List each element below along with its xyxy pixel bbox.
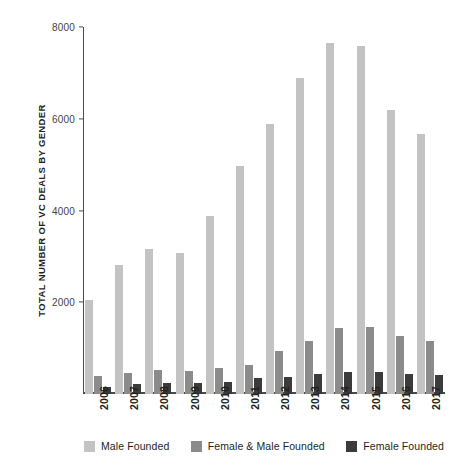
- x-axis-label-cell: 2007: [113, 396, 143, 440]
- bar-groups: [83, 27, 445, 394]
- x-axis-label: 2012: [279, 386, 291, 410]
- bar-group: [415, 27, 445, 394]
- x-axis-label-cell: 2006: [83, 396, 113, 440]
- x-axis-labels: 2006200720082009201020112012201320142015…: [83, 396, 445, 440]
- x-axis-label-cell: 2010: [204, 396, 234, 440]
- bar-group: [113, 27, 143, 394]
- bar-2011-male: [236, 166, 244, 394]
- bar-group: [385, 27, 415, 394]
- x-axis-label: 2015: [370, 386, 382, 410]
- legend-label: Female Founded: [363, 440, 444, 452]
- plot-area: 2000400060008000: [83, 27, 445, 394]
- legend-swatch-icon: [191, 441, 202, 452]
- bar-2009-male: [176, 253, 184, 394]
- bar-2014-male: [326, 43, 334, 394]
- bar-2015-fm: [366, 327, 374, 394]
- bar-2015-male: [357, 46, 365, 394]
- x-axis-label: 2017: [430, 386, 442, 410]
- bar-group: [234, 27, 264, 394]
- x-axis-label-cell: 2012: [264, 396, 294, 440]
- bar-2010-male: [206, 216, 214, 394]
- y-axis-tick-label: 8000: [35, 22, 75, 33]
- x-axis-label: 2010: [219, 386, 231, 410]
- x-axis-label-cell: 2013: [294, 396, 324, 440]
- x-axis-label: 2011: [249, 386, 261, 410]
- x-axis-label-cell: 2016: [385, 396, 415, 440]
- legend-item[interactable]: Male Founded: [84, 440, 169, 452]
- x-axis-label: 2014: [339, 386, 351, 410]
- bar-2006-male: [85, 300, 93, 395]
- y-axis-tick-label: 6000: [35, 113, 75, 124]
- x-axis-label: 2016: [400, 386, 412, 410]
- x-axis-label: 2013: [309, 386, 321, 410]
- bar-group: [324, 27, 354, 394]
- bar-group: [143, 27, 173, 394]
- x-axis-label-cell: 2017: [415, 396, 445, 440]
- bar-group: [264, 27, 294, 394]
- bar-2012-male: [266, 124, 274, 394]
- x-axis-label: 2008: [158, 386, 170, 410]
- vc-deals-by-gender-chart: TOTAL NUMBER OF VC DEALS BY GENDER 20004…: [0, 0, 455, 476]
- legend-label: Female & Male Founded: [208, 440, 325, 452]
- x-axis-label-cell: 2011: [234, 396, 264, 440]
- bar-2016-male: [387, 110, 395, 394]
- legend-item[interactable]: Female & Male Founded: [191, 440, 325, 452]
- bar-group: [294, 27, 324, 394]
- legend-item[interactable]: Female Founded: [346, 440, 444, 452]
- bar-group: [83, 27, 113, 394]
- bar-2017-male: [417, 134, 425, 394]
- x-axis-label-cell: 2008: [143, 396, 173, 440]
- x-axis-label-cell: 2015: [355, 396, 385, 440]
- x-axis-label: 2009: [189, 386, 201, 410]
- bar-2008-male: [145, 249, 153, 394]
- y-axis-tick-label: 4000: [35, 205, 75, 216]
- x-axis-label-cell: 2009: [174, 396, 204, 440]
- bar-2007-male: [115, 265, 123, 394]
- bar-group: [174, 27, 204, 394]
- x-axis-label: 2007: [128, 386, 140, 410]
- bar-2013-male: [296, 78, 304, 394]
- chart-legend: Male FoundedFemale & Male FoundedFemale …: [84, 440, 444, 452]
- legend-label: Male Founded: [101, 440, 169, 452]
- x-axis-label-cell: 2014: [324, 396, 354, 440]
- x-axis-label: 2006: [98, 386, 110, 410]
- y-axis-tick-label: 2000: [35, 297, 75, 308]
- bar-group: [204, 27, 234, 394]
- legend-swatch-icon: [346, 441, 357, 452]
- bar-2014-fm: [335, 328, 343, 394]
- legend-swatch-icon: [84, 441, 95, 452]
- bar-group: [355, 27, 385, 394]
